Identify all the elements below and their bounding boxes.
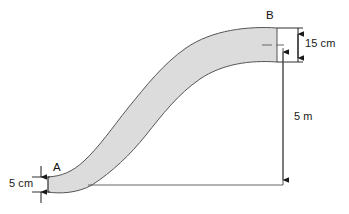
dimension-label-inlet-depth: 5 cm xyxy=(9,178,33,189)
diagram-svg xyxy=(0,0,349,214)
diagram-canvas: A B 5 cm 15 cm 5 m xyxy=(0,0,349,214)
point-label-b: B xyxy=(266,10,274,22)
dimension-5cm-group xyxy=(32,166,50,203)
dimension-label-elevation: 5 m xyxy=(294,111,313,122)
dimension-label-outlet-depth: 15 cm xyxy=(305,38,335,49)
curved-band-shape xyxy=(48,28,277,193)
point-label-a: A xyxy=(53,162,61,174)
